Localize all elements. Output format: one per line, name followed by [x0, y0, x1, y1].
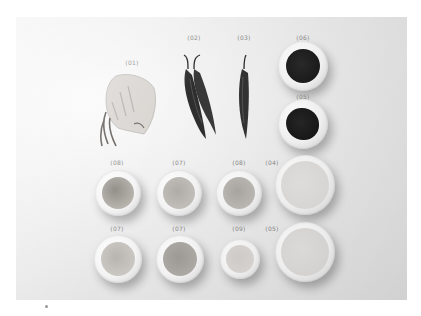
bowl-r1c2: [156, 170, 202, 216]
label-bowl-dark-top: (06): [296, 34, 310, 41]
label-bowl-r2c3: (09): [232, 225, 246, 232]
label-bowl-r2c1: (07): [110, 225, 124, 232]
label-bowl-r2c2: (07): [172, 225, 186, 232]
label-bowl-r1c2: (07): [172, 159, 186, 166]
label-chili-single: (03): [237, 34, 251, 41]
bowl-dark-paste-bottom: [278, 99, 328, 149]
label-squid: (01): [125, 59, 139, 66]
bowl-r1c3: [216, 170, 262, 216]
label-bowl-r1c3: (08): [232, 159, 246, 166]
label-bowl-r1c1: (08): [110, 159, 124, 166]
bowl-dark-paste-top: [278, 41, 328, 91]
label-bowl-r2c4: (05): [265, 225, 279, 232]
bowl-r2c3: [220, 239, 260, 279]
label-bowl-r1c4: (04): [265, 159, 279, 166]
bowl-r2c1: [94, 235, 142, 283]
chili-single-image: [234, 53, 254, 141]
bowl-r1c4-large: [275, 155, 335, 215]
squid-image: [98, 72, 158, 150]
ingredients-photo: (01) (02) (03) (06) (05) (08) (07) (08): [16, 17, 407, 300]
chili-pair-image: [176, 53, 222, 141]
bowl-r1c1: [95, 170, 141, 216]
bowl-r2c4-large: [275, 222, 335, 282]
decorative-dot: [45, 305, 48, 308]
label-chili-pair: (02): [187, 34, 201, 41]
bowl-r2c2: [156, 235, 204, 283]
